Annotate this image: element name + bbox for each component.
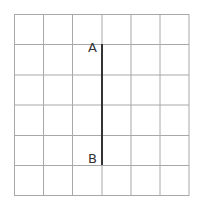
point-b-label: B — [88, 152, 97, 165]
point-a-label: A — [88, 41, 97, 54]
grid-diagram — [0, 0, 198, 198]
